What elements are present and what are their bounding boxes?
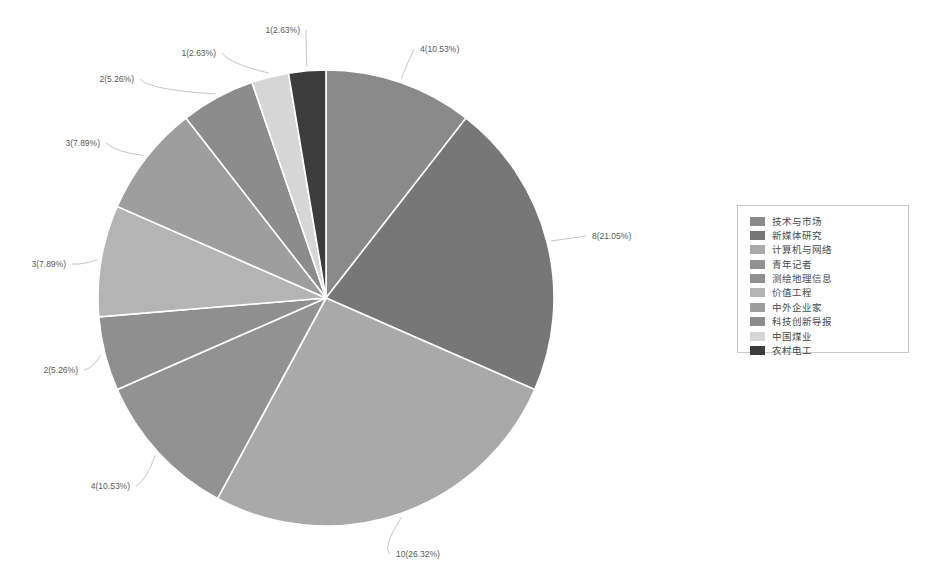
legend-item-label: 中国煤业	[772, 331, 812, 342]
slice-data-label: 10(26.32%)	[396, 549, 440, 559]
legend-item[interactable]: 新媒体研究	[750, 228, 908, 242]
pie-slices-group	[98, 70, 554, 526]
legend-item[interactable]: 中国煤业	[750, 329, 908, 343]
legend-item-label: 科技创新导报	[772, 316, 832, 327]
legend-item-label: 青年记者	[772, 259, 812, 270]
legend-swatch-icon	[750, 346, 765, 355]
legend-item-label: 中外企业家	[772, 302, 822, 313]
label-leader-line	[140, 79, 216, 94]
legend-swatch-icon	[750, 332, 765, 341]
legend-swatch-icon	[750, 288, 765, 297]
slice-data-label: 1(2.63%)	[266, 25, 301, 35]
legend-item[interactable]: 科技创新导报	[750, 315, 908, 329]
legend-swatch-icon	[750, 317, 765, 326]
legend-item[interactable]: 测绘地理信息	[750, 272, 908, 286]
legend-item[interactable]: 中外企业家	[750, 300, 908, 314]
legend-item[interactable]: 价值工程	[750, 286, 908, 300]
slice-data-label: 2(5.26%)	[44, 365, 79, 375]
label-leader-line	[222, 53, 269, 73]
label-leader-line	[306, 30, 307, 67]
legend-item[interactable]: 计算机与网络	[750, 243, 908, 257]
legend-item-label: 计算机与网络	[772, 244, 832, 255]
legend-swatch-icon	[750, 274, 765, 283]
legend-swatch-icon	[750, 260, 765, 269]
legend-swatch-icon	[750, 303, 765, 312]
label-leader-line	[136, 455, 155, 486]
label-leader-line	[106, 143, 143, 156]
slice-data-label: 3(7.89%)	[32, 259, 67, 269]
slice-data-label: 4(10.53%)	[91, 481, 130, 491]
legend-item-label: 技术与市场	[772, 216, 822, 227]
chart-legend: 技术与市场 新媒体研究 计算机与网络 青年记者 测绘地理信息 价值工程 中外企业…	[737, 205, 909, 353]
slice-data-label: 2(5.26%)	[100, 74, 135, 84]
label-leader-line	[84, 355, 101, 370]
legend-item[interactable]: 青年记者	[750, 257, 908, 271]
legend-swatch-icon	[750, 245, 765, 254]
legend-item-label: 农村电工	[772, 345, 812, 356]
legend-item-label: 新媒体研究	[772, 230, 822, 241]
legend-swatch-icon	[750, 217, 765, 226]
slice-data-label: 3(7.89%)	[66, 138, 101, 148]
legend-item[interactable]: 技术与市场	[750, 214, 908, 228]
label-leader-line	[72, 260, 97, 264]
pie-chart-figure: 4(10.53%)8(21.05%)10(26.32%)4(10.53%)2(5…	[0, 0, 942, 579]
slice-data-label: 1(2.63%)	[182, 48, 217, 58]
label-leader-line	[551, 236, 586, 241]
legend-item-label: 测绘地理信息	[772, 273, 832, 284]
label-leader-line	[401, 49, 414, 79]
slice-data-label: 8(21.05%)	[592, 231, 631, 241]
legend-item[interactable]: 农村电工	[750, 344, 908, 358]
legend-swatch-icon	[750, 231, 765, 240]
legend-item-label: 价值工程	[772, 287, 812, 298]
slice-data-label: 4(10.53%)	[420, 44, 459, 54]
